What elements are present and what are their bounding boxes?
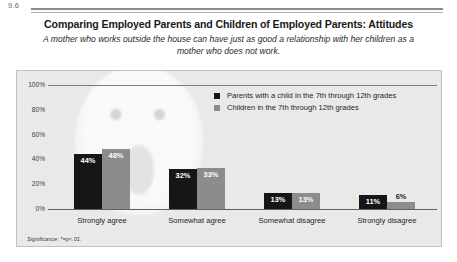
bar-group-bars: 32%33% (154, 89, 240, 209)
bar-value-label: 44% (74, 156, 102, 165)
bar-group: 11%6%Strongly disagree (344, 89, 430, 209)
bar[interactable]: 13% (292, 193, 320, 209)
chart-title: Comparing Employed Parents and Children … (18, 18, 439, 30)
bar-value-label: 13% (292, 195, 320, 204)
figure-number: 9.6 (8, 1, 19, 10)
y-axis-tick-0: 0% (19, 205, 45, 212)
bar[interactable]: 11% (359, 195, 387, 209)
bar[interactable]: 33% (197, 168, 225, 209)
bar-group: 32%33%Somewhat agree (154, 89, 240, 209)
header-rule-thick (31, 8, 443, 10)
x-axis-category-label: Somewhat agree (148, 216, 246, 225)
bar-value-label: 32% (169, 171, 197, 180)
bar[interactable]: 32% (169, 169, 197, 209)
y-axis-tick-20: 20% (19, 180, 45, 187)
bar-value-label: 33% (197, 170, 225, 179)
bar-value-label: 48% (102, 151, 130, 160)
y-axis-tick-80: 80% (19, 106, 45, 113)
bar-group-bars: 44%48% (59, 89, 145, 209)
bar-value-label: 13% (264, 195, 292, 204)
bar[interactable]: 44% (74, 154, 102, 209)
header-rule-thin (31, 12, 443, 13)
y-axis-tick-100: 100% (19, 81, 45, 88)
bar-value-label: 11% (359, 197, 387, 206)
figure-header: 9.6 (0, 0, 457, 18)
y-axis-tick-40: 40% (19, 155, 45, 162)
plot-area: Parents with a child in the 7th through … (17, 71, 441, 246)
y-axis-top-rule (48, 85, 437, 86)
x-axis-category-label: Strongly agree (53, 216, 151, 225)
bar-value-label: 6% (387, 192, 415, 201)
chart-panel: Parents with a child in the 7th through … (16, 70, 442, 247)
bar[interactable]: 6% (387, 202, 415, 209)
bar[interactable]: 13% (264, 193, 292, 209)
x-axis-category-label: Strongly disagree (338, 216, 436, 225)
bar-group-bars: 11%6% (344, 89, 430, 209)
chart-subtitle: A mother who works outside the house can… (40, 34, 417, 57)
bar-group-bars: 13%13% (249, 89, 335, 209)
bar-group: 44%48%Strongly agree (59, 89, 145, 209)
significance-note: Significance: *=p<.01. (27, 236, 81, 242)
bar-group: 13%13%Somewhat disagree (249, 89, 335, 209)
x-axis-baseline (48, 209, 437, 210)
x-axis-category-label: Somewhat disagree (243, 216, 341, 225)
bar[interactable]: 48% (102, 149, 130, 209)
y-axis-tick-60: 60% (19, 131, 45, 138)
